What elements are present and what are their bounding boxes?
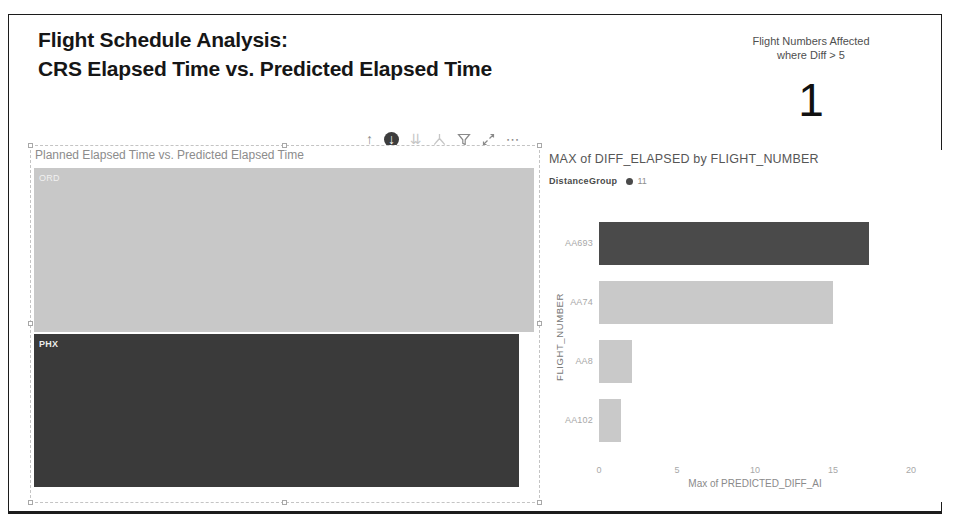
report-title: Flight Schedule Analysis: CRS Elapsed Ti… <box>38 26 492 84</box>
bar-chart-legend: DistanceGroup 11 <box>549 176 647 186</box>
bar-AA74[interactable] <box>599 281 833 324</box>
kpi-label-line2: where Diff > 5 <box>726 48 896 62</box>
kpi-value: 1 <box>726 73 896 127</box>
report-title-line2: CRS Elapsed Time vs. Predicted Elapsed T… <box>38 55 492 84</box>
treemap-block-ord[interactable]: ORD <box>34 168 534 332</box>
x-axis-ticks: 05101520 <box>599 465 911 477</box>
bar-AA102[interactable] <box>599 399 621 442</box>
bar-AA8[interactable] <box>599 340 632 383</box>
expand-all-icon[interactable] <box>433 133 446 146</box>
go-to-next-level-icon[interactable]: ⇊ <box>410 132 422 146</box>
kpi-card[interactable]: Flight Numbers Affected where Diff > 5 1 <box>726 34 896 127</box>
x-tick: 5 <box>674 465 679 475</box>
kpi-label-line1: Flight Numbers Affected <box>726 34 896 48</box>
selection-handle[interactable] <box>28 321 33 326</box>
selection-handle[interactable] <box>282 500 287 505</box>
category-label: AA8 <box>549 356 599 366</box>
more-options-icon[interactable]: ⋯ <box>506 132 520 146</box>
category-label: AA74 <box>549 297 599 307</box>
selection-handle[interactable] <box>537 143 542 148</box>
bar-row: AA693 <box>549 214 915 273</box>
bar-row: AA102 <box>549 391 915 450</box>
legend-title: DistanceGroup <box>549 176 617 186</box>
x-tick: 20 <box>906 465 916 475</box>
bar-chart-rows: AA693AA74AA8AA102 <box>549 214 915 450</box>
x-axis-title: Max of PREDICTED_DIFF_AI <box>599 478 911 489</box>
bar-row: AA74 <box>549 273 915 332</box>
bar-AA693[interactable] <box>599 222 869 265</box>
x-tick: 15 <box>828 465 838 475</box>
left-visual-treemap[interactable]: Planned Elapsed Time vs. Predicted Elaps… <box>30 145 540 503</box>
x-tick: 10 <box>750 465 760 475</box>
category-label: AA102 <box>549 415 599 425</box>
left-visual-title: Planned Elapsed Time vs. Predicted Elaps… <box>35 148 304 162</box>
filter-icon[interactable] <box>457 133 471 146</box>
report-title-line1: Flight Schedule Analysis: <box>38 26 492 55</box>
category-label: AA693 <box>549 238 599 248</box>
drill-up-icon[interactable]: ↑ <box>366 132 373 146</box>
treemap-block-ord-label: ORD <box>34 168 534 183</box>
selection-handle[interactable] <box>537 500 542 505</box>
bar-chart-title: MAX of DIFF_ELAPSED by FLIGHT_NUMBER <box>549 152 819 166</box>
selection-handle[interactable] <box>282 143 287 148</box>
focus-mode-icon[interactable] <box>482 133 495 146</box>
legend-dot-icon <box>626 178 633 185</box>
legend-entry[interactable]: 11 <box>626 176 646 186</box>
legend-entry-label: 11 <box>637 176 646 186</box>
x-tick: 0 <box>596 465 601 475</box>
right-visual-bar-chart[interactable]: MAX of DIFF_ELAPSED by FLIGHT_NUMBER Dis… <box>548 150 942 502</box>
selection-handle[interactable] <box>537 321 542 326</box>
selection-handle[interactable] <box>28 143 33 148</box>
treemap-block-phx[interactable]: PHX <box>34 334 519 487</box>
bar-row: AA8 <box>549 332 915 391</box>
selection-handle[interactable] <box>28 500 33 505</box>
treemap-block-phx-label: PHX <box>34 334 519 349</box>
